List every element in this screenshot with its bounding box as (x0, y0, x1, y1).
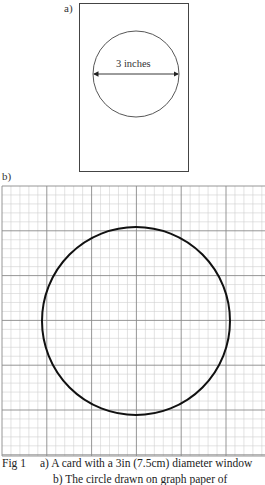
caption-fig-label: Fig 1 (2, 457, 26, 469)
caption-line-1: a) A card with a 3in (7.5cm) diameter wi… (40, 457, 252, 469)
caption-line-2: b) The circle drawn on graph paper of (53, 473, 227, 485)
